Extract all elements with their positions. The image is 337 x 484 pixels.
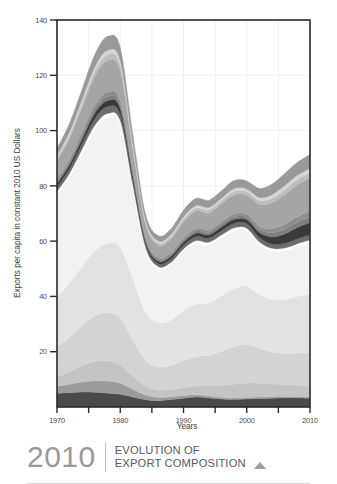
caption-year: 2010 (27, 440, 105, 474)
y-axis-ticks: 20406080100120140 (35, 16, 57, 357)
figure-root: 20406080100120140 19701980199020002010 E… (0, 0, 337, 484)
caption-title-line-1: EVOLUTION OF (115, 444, 266, 458)
y-tick-label: 140 (35, 16, 47, 25)
caption-title-line-2-row: EXPORT COMPOSITION (115, 457, 266, 471)
caption-title-line-2: EXPORT COMPOSITION (115, 457, 246, 471)
stacked-area-chart: 20406080100120140 19701980199020002010 E… (0, 0, 337, 430)
x-tick-label: 2010 (302, 416, 318, 425)
figure-caption: 2010 EVOLUTION OF EXPORT COMPOSITION (0, 437, 337, 484)
x-tick-label: 1980 (112, 416, 128, 425)
x-tick-label: 2000 (239, 416, 255, 425)
y-tick-label: 100 (35, 126, 47, 135)
x-tick-label: 1970 (49, 416, 65, 425)
x-axis-title: Years (177, 422, 198, 430)
y-tick-label: 20 (39, 347, 47, 356)
y-tick-label: 60 (39, 237, 47, 246)
chart-plot-area: 20406080100120140 19701980199020002010 E… (0, 0, 337, 430)
y-tick-label: 120 (35, 71, 47, 80)
y-axis-title: Exports per capita in constant 2010 US D… (13, 128, 22, 298)
triangle-up-icon (254, 462, 266, 469)
caption-title-block: EVOLUTION OF EXPORT COMPOSITION (106, 440, 266, 474)
caption-inner: 2010 EVOLUTION OF EXPORT COMPOSITION (27, 440, 266, 474)
y-tick-label: 80 (39, 182, 47, 191)
y-tick-label: 40 (39, 292, 47, 301)
